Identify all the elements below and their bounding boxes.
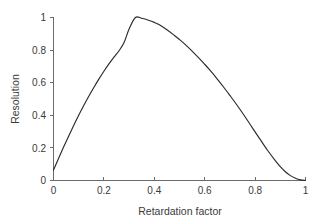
- y-axis-title: Resolution: [9, 74, 21, 124]
- y-tick-label-0: 0: [40, 175, 46, 186]
- x-tick-label-0-4: 0.4: [147, 185, 161, 196]
- y-tick-label-1: 1: [40, 12, 46, 23]
- x-tick-label-0-6: 0.6: [198, 185, 212, 196]
- x-tick-label-0: 0: [51, 185, 57, 196]
- y-tick-label-0-4: 0.4: [32, 110, 46, 121]
- y-tick-label-0-8: 0.8: [32, 45, 46, 56]
- x-axis-title: Retardation factor: [138, 205, 222, 217]
- resolution-vs-retardation-factor-chart: 1 0.8 0.6 0.4 0.2 0 0 0.2 0.4 0.6 0.8 1 …: [0, 0, 322, 224]
- x-tick-label-0-8: 0.8: [248, 185, 262, 196]
- x-tick-label-0-2: 0.2: [97, 185, 111, 196]
- x-tick-label-1: 1: [303, 185, 309, 196]
- y-tick-label-0-2: 0.2: [32, 143, 46, 154]
- y-tick-label-0-6: 0.6: [32, 77, 46, 88]
- chart-figure: 1 0.8 0.6 0.4 0.2 0 0 0.2 0.4 0.6 0.8 1 …: [0, 0, 322, 224]
